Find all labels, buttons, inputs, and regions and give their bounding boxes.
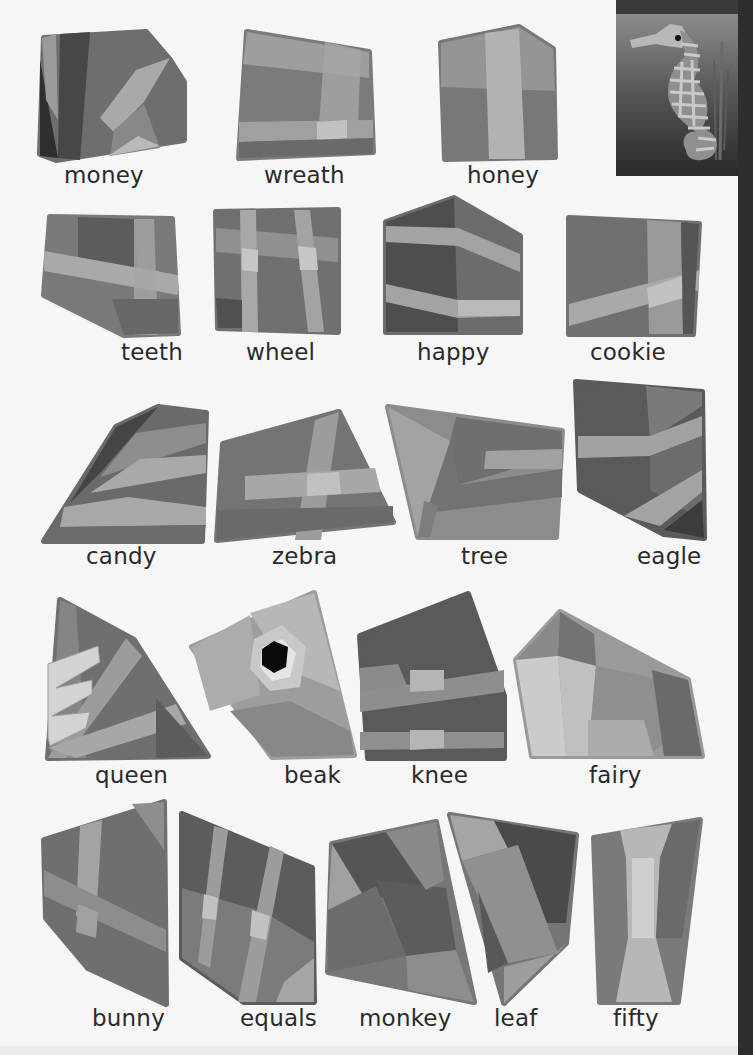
piece-label-candy: candy [86,545,157,568]
puzzle-piece-knee[interactable] [358,592,508,760]
puzzle-piece-wheel[interactable] [212,208,342,336]
puzzle-piece-candy[interactable] [40,403,210,543]
puzzle-piece-eagle[interactable] [574,380,706,540]
puzzle-piece-money[interactable] [40,30,186,164]
piece-label-happy: happy [417,341,489,364]
piece-label-zebra: zebra [272,545,337,568]
page-edge-shadow [738,0,753,1055]
puzzle-piece-wreath[interactable] [237,30,375,160]
piece-label-teeth: teeth [121,341,183,364]
piece-label-cookie: cookie [590,341,666,364]
piece-label-honey: honey [467,164,539,187]
seahorse-reference-image [616,0,738,176]
puzzle-piece-happy[interactable] [384,196,522,336]
piece-label-queen: queen [95,764,168,787]
piece-label-money: money [64,164,144,187]
piece-label-beak: beak [284,764,341,787]
puzzle-piece-cookie[interactable] [567,214,701,336]
piece-label-equals: equals [240,1007,317,1030]
puzzle-piece-tree[interactable] [386,405,566,539]
piece-label-fairy: fairy [589,764,642,787]
piece-label-knee: knee [411,764,468,787]
puzzle-piece-beak[interactable] [190,591,356,759]
puzzle-piece-bunny[interactable] [42,800,168,1006]
piece-label-tree: tree [461,545,508,568]
seahorse-icon [616,0,738,176]
puzzle-piece-fifty[interactable] [592,818,704,1004]
puzzle-piece-queen[interactable] [46,598,212,760]
puzzle-piece-leaf[interactable] [448,813,580,1005]
puzzle-piece-honey[interactable] [439,25,559,161]
page-bottom-edge [0,1046,738,1055]
piece-label-eagle: eagle [637,545,701,568]
puzzle-piece-teeth[interactable] [42,215,180,335]
piece-label-wheel: wheel [246,341,315,364]
piece-label-bunny: bunny [92,1007,165,1030]
piece-label-leaf: leaf [494,1007,538,1030]
piece-label-fifty: fifty [613,1007,659,1030]
puzzle-piece-zebra[interactable] [215,410,395,542]
piece-label-monkey: monkey [359,1007,452,1030]
puzzle-piece-equals[interactable] [180,812,316,1006]
piece-label-wreath: wreath [264,164,345,187]
puzzle-piece-fairy[interactable] [514,610,706,760]
